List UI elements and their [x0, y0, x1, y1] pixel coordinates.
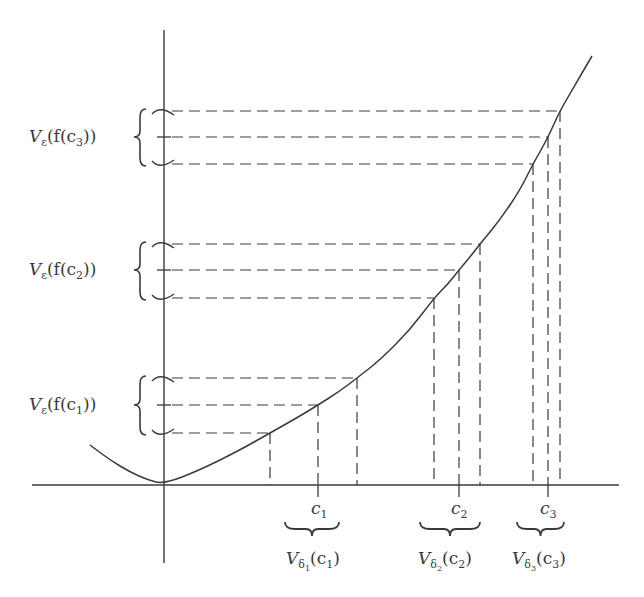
delta-neighborhood-label-c1: Vδ1(c1): [286, 550, 340, 573]
delta-neighborhood-label-c2: Vδ2(c2): [418, 550, 472, 573]
axis-ticks: [152, 110, 548, 497]
epsilon-neighborhood-label-c2: Vε(f(c2)): [29, 261, 96, 281]
left-brace-c1: [134, 376, 146, 435]
left-brace-c2: [134, 242, 146, 300]
delta-neighborhood-label-c3: Vδ3(c3): [512, 550, 566, 573]
interval-endpoint-bottom-c2: [152, 294, 174, 299]
under-brace-c1: [285, 522, 339, 536]
interval-endpoint-bottom-c3: [152, 160, 174, 165]
function-curve-path: [90, 56, 592, 482]
interval-endpoint-bottom-c1: [152, 429, 174, 434]
under-brace-c2: [420, 522, 480, 536]
function-curve: [90, 56, 592, 482]
interval-endpoint-top-c3: [152, 110, 174, 115]
dashed-guide-lines: [172, 111, 560, 485]
point-label-c1: c1: [311, 500, 328, 520]
epsilon-neighborhood-label-c3: Vε(f(c3)): [29, 128, 96, 148]
braces: [134, 109, 564, 536]
axes: [32, 30, 619, 563]
under-brace-c3: [517, 522, 564, 536]
point-label-c3: c3: [540, 500, 557, 520]
point-label-c2: c2: [451, 500, 468, 520]
interval-endpoint-top-c2: [152, 243, 174, 248]
epsilon-neighborhood-label-c1: Vε(f(c1)): [29, 396, 96, 416]
continuity-diagram: Vε(f(c3)) Vε(f(c2)) Vε(f(c1)) c1 c2 c3 V…: [0, 0, 644, 597]
interval-endpoint-top-c1: [152, 377, 174, 382]
left-brace-c3: [134, 109, 146, 166]
